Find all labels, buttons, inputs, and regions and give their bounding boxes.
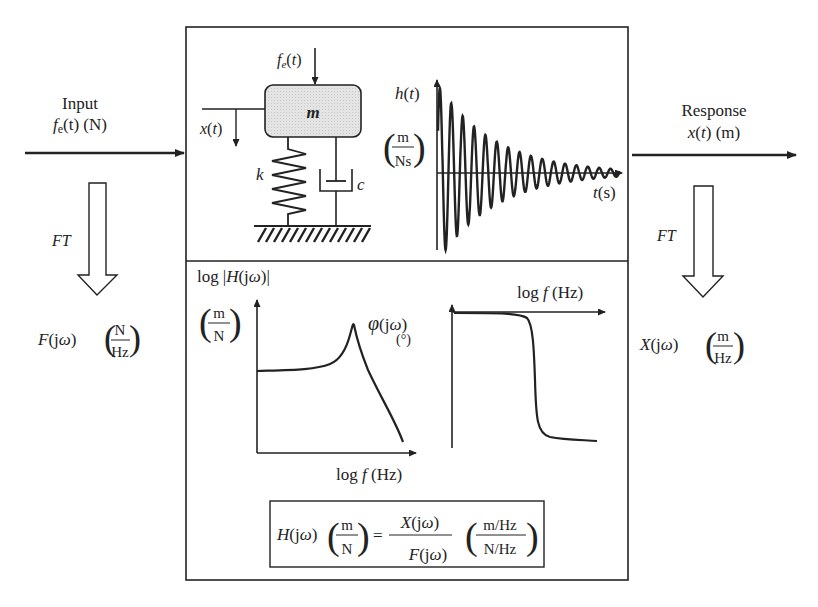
svg-text:F(jω): F(jω) [408,545,447,564]
magnitude-curve [257,324,403,442]
svg-text:N: N [342,541,353,557]
ft-arrow-icon [78,183,117,295]
magnitude-unit: ( m N ) [199,301,242,344]
input-unit: ( N Hz ) [104,318,141,360]
input-signal: fe(t) (N) [53,115,107,136]
mass-label: m [306,103,319,122]
svg-text:(: ( [465,515,478,558]
mass-spring-damper: fe(t) m x(t) k c [199,48,371,242]
response-signal: x(t) (m) [687,123,740,142]
impulse-response-plot: h(t) ( m Ns ) t(s) [383,80,622,250]
frf-formula: H(jω) ( m N ) = X(jω) F(jω) ( m/Hz N/Hz … [270,501,544,567]
displacement-label: x(t) [199,120,222,138]
magnitude-y-label: log|H(jω)| [197,267,270,286]
svg-text:N/Hz: N/Hz [484,541,517,557]
damper-icon [320,137,352,226]
svg-text:Hz: Hz [111,344,129,360]
svg-text:N: N [115,322,126,338]
phase-y-unit: (°) [396,332,411,348]
svg-text:Ns: Ns [395,153,412,169]
phase-plot: φ(jω) (°) log f (Hz) [368,283,605,448]
svg-text:m: m [717,328,729,344]
damper-label: c [357,175,365,194]
spring-icon [272,137,306,226]
phase-curve [454,313,597,441]
svg-text:m: m [397,129,409,145]
response-section: Response x(t) (m) FT X(jω) ( m Hz ) [632,101,796,366]
spring-label: k [256,165,264,184]
svg-text:): ) [526,515,539,558]
svg-text:): ) [413,126,426,169]
ft-arrow-icon [683,186,723,297]
svg-text:m: m [341,517,353,533]
input-section: Input fe(t) (N) FT F(jω) ( N Hz ) [25,94,184,360]
svg-text:H(jω): H(jω) [276,525,317,544]
svg-text:m: m [213,305,225,321]
svg-text:(: ( [327,515,340,558]
svg-text:): ) [357,515,370,558]
input-label: Input [62,94,98,113]
impulse-y-label: h(t) [395,84,420,103]
impulse-curve [438,88,620,250]
svg-text:Hz: Hz [714,350,732,366]
phase-x-label: log f (Hz) [517,283,583,302]
response-label: Response [681,101,746,120]
frf-diagram: Input fe(t) (N) FT F(jω) ( N Hz ) Respon… [0,0,818,607]
input-freq-fn: F(jω) [37,330,76,349]
input-ft-label: FT [51,232,72,249]
svg-text:=: = [373,526,383,545]
svg-text:): ) [733,325,745,365]
svg-text:): ) [229,301,242,344]
magnitude-plot: log|H(jω)| ( m N ) log f (Hz) [197,267,416,484]
magnitude-x-label: log f (Hz) [336,465,402,484]
ground-icon [254,226,371,242]
svg-text:N: N [214,328,225,344]
response-freq-fn: X(jω) [639,335,678,354]
force-label: fe(t) [277,51,301,70]
svg-text:m/Hz: m/Hz [483,517,517,533]
response-unit: ( m Hz ) [705,325,745,366]
system-box [186,27,628,580]
response-ft-label: FT [656,227,677,244]
svg-text:X(jω): X(jω) [400,513,439,532]
impulse-unit: ( m Ns ) [383,126,426,169]
impulse-x-label: t(s) [593,183,616,202]
svg-text:): ) [129,318,141,358]
